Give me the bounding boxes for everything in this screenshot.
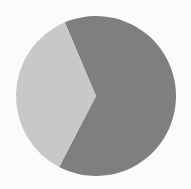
pie-chart-figure xyxy=(0,0,191,189)
pie-slices-group xyxy=(16,16,176,176)
pie-chart-canvas xyxy=(0,0,191,189)
